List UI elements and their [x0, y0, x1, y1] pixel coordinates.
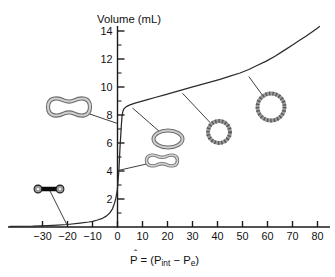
stippled-circle-icon [208, 121, 230, 143]
plot-layer: −30−20−10010203040506070802468101214 [8, 25, 330, 242]
x-tick-label: 70 [286, 230, 298, 242]
x-tick-label: −20 [58, 230, 76, 242]
x-tick-label: 20 [161, 230, 173, 242]
stippled-circle-icon [258, 94, 285, 121]
long-peanut-icon [147, 155, 178, 166]
pressure-volume-figure: −30−20−10010203040506070802468101214 Vol… [0, 0, 335, 277]
pinched-peanut-icon [48, 98, 90, 115]
chart-svg: −30−20−10010203040506070802468101214 Vol… [0, 0, 335, 277]
vesicle-wall-base [208, 121, 230, 143]
leader-line [49, 189, 67, 225]
x-tick-label: 60 [261, 230, 273, 242]
x-tick-label: 40 [211, 230, 223, 242]
open-oval-icon [154, 131, 183, 148]
x-tick-label: 50 [236, 230, 248, 242]
y-axis-title: Volume (mL) [97, 13, 161, 25]
tube-rolled-edge-center [37, 188, 40, 191]
x-tick-label: 0 [114, 230, 120, 242]
y-tick-label: 14 [100, 25, 112, 37]
y-tick-label: 6 [106, 137, 112, 149]
collapsed-tube-icon [34, 185, 64, 193]
x-tick-label: 80 [311, 230, 323, 242]
y-tick-label: 10 [100, 81, 112, 93]
x-tick-label: −10 [83, 230, 101, 242]
y-tick-label: 2 [106, 193, 112, 205]
y-tick-label: 4 [106, 165, 112, 177]
tube-rolled-edge-center [59, 188, 62, 191]
x-axis-title: P = (Pint − Pe) [130, 254, 199, 269]
x-tick-label: 10 [136, 230, 148, 242]
pressure-volume-curve [10, 27, 320, 227]
y-tick-label: 12 [100, 53, 112, 65]
x-tick-label: −30 [33, 230, 51, 242]
y-tick-label: 8 [106, 109, 112, 121]
x-tick-label: 30 [186, 230, 198, 242]
